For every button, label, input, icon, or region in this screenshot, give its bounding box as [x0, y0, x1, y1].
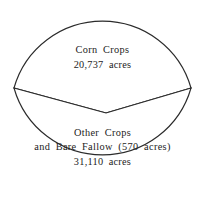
other-crops-bare-fallow-detail: and Bare Fallow (570 acres): [0, 140, 205, 153]
pie-slice-label-other-crops: Other Crops and Bare Fallow (570 acres) …: [0, 126, 205, 168]
pie-slice-label-corn-crops: Corn Crops 20,737 acres: [0, 43, 205, 72]
corn-crops-acreage: 20,737 acres: [0, 58, 205, 71]
pie-chart-figure: Corn Crops 20,737 acres Other Crops and …: [0, 0, 205, 217]
pie-chart-graphic: [0, 0, 205, 217]
other-crops-acreage: 31,110 acres: [0, 155, 205, 168]
other-crops-name: Other Crops: [0, 126, 205, 139]
corn-crops-name: Corn Crops: [0, 43, 205, 56]
